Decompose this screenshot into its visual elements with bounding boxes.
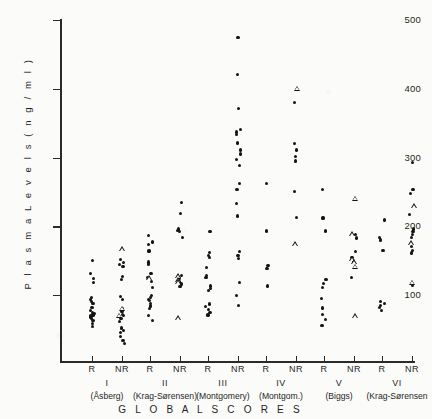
x-tick-IV-R (266, 356, 267, 362)
data-point-dot (122, 314, 125, 317)
data-point-triangle (292, 241, 298, 246)
data-point-dot (235, 294, 238, 297)
y-axis-title: P l a s m a L e v e l s ( n g / m l ) (22, 29, 33, 319)
data-point-triangle (352, 264, 358, 269)
data-point-dot (380, 309, 383, 312)
data-point-dot (120, 278, 123, 281)
data-point-dot (237, 107, 240, 110)
data-point-triangle (352, 313, 358, 318)
data-point-dot (205, 266, 208, 269)
x-label-VI-NR: NR (397, 364, 427, 374)
data-point-dot (322, 282, 325, 285)
data-point-dot (236, 141, 239, 144)
data-point-dot (236, 214, 239, 217)
data-point-dot (235, 158, 238, 161)
data-point-dot (408, 213, 411, 216)
data-point-dot (354, 250, 357, 253)
x-label-II-R: R (135, 364, 165, 374)
data-point-dot (119, 258, 122, 261)
group-roman-IV: IV (251, 378, 311, 388)
data-point-dot (239, 148, 242, 151)
group-name-VI: (Krag-Sørensen (351, 391, 432, 401)
data-point-triangle (411, 203, 417, 208)
data-point-dot (238, 182, 241, 185)
data-point-dot (266, 284, 269, 287)
data-point-dot (350, 276, 353, 279)
data-point-dot (379, 300, 382, 303)
x-label-I-R: R (77, 364, 107, 374)
data-point-dot (91, 325, 94, 328)
data-point-triangle (175, 315, 181, 320)
data-point-dot (411, 188, 414, 191)
y-tick-label-300: 300 (375, 152, 421, 163)
data-point-dot (235, 188, 238, 191)
data-point-dot (324, 318, 327, 321)
data-point-dot (147, 314, 150, 317)
data-point-dot (321, 286, 324, 289)
data-point-dot (208, 302, 211, 305)
x-label-V-NR: NR (339, 364, 369, 374)
data-point-dot (381, 249, 384, 252)
data-point-dot (89, 272, 92, 275)
data-point-dot (121, 298, 124, 301)
x-tick-I-NR (122, 356, 123, 362)
data-point-triangle (119, 306, 125, 311)
data-point-dot (147, 234, 150, 237)
data-point-dot (147, 249, 150, 252)
data-point-triangle (409, 280, 415, 285)
y-tick-label-500: 500 (375, 14, 421, 25)
data-point-dot (206, 313, 209, 316)
data-point-dot (235, 202, 238, 205)
data-point-dot (238, 164, 241, 167)
data-point-dot (118, 320, 121, 323)
x-axis-title: G L O B A L S C O R E S (0, 404, 421, 415)
data-point-dot (119, 331, 122, 334)
y-tick-400 (53, 89, 61, 90)
data-point-dot (321, 306, 324, 309)
data-point-triangle (349, 231, 355, 236)
x-label-VI-R: R (367, 364, 397, 374)
data-point-dot (320, 324, 323, 327)
y-tick-500 (53, 20, 61, 21)
x-label-III-R: R (193, 364, 223, 374)
data-point-dot (383, 302, 386, 305)
data-point-dot (293, 142, 296, 145)
data-point-dot (295, 148, 298, 151)
data-point-dot (151, 319, 154, 322)
group-roman-V: V (309, 378, 369, 388)
data-point-dot (321, 313, 324, 316)
data-point-dot (410, 245, 413, 248)
data-point-dot (293, 190, 296, 193)
data-point-dot (295, 216, 298, 219)
x-tick-II-R (150, 356, 151, 362)
data-point-dot (294, 155, 297, 158)
data-point-dot (321, 216, 324, 219)
data-point-triangle (146, 275, 152, 280)
y-tick-200 (53, 226, 61, 227)
data-point-dot (91, 259, 94, 262)
data-point-dot (409, 192, 412, 195)
data-point-dot (411, 161, 414, 164)
data-point-dot (265, 267, 268, 270)
data-point-dot (236, 73, 239, 76)
y-axis-line (60, 19, 62, 362)
data-point-triangle (119, 246, 125, 251)
data-point-dot (383, 218, 386, 221)
data-point-dot (122, 329, 125, 332)
group-roman-VI: VI (367, 378, 427, 388)
data-point-dot (178, 285, 181, 288)
data-point-dot (91, 302, 94, 305)
data-point-dot (178, 230, 181, 233)
data-point-dot (265, 229, 268, 232)
group-roman-II: II (135, 378, 195, 388)
data-point-triangle (294, 86, 300, 91)
data-point-dot (320, 297, 323, 300)
data-point-dot (265, 182, 268, 185)
x-label-III-NR: NR (223, 364, 253, 374)
x-label-IV-NR: NR (281, 364, 311, 374)
data-point-dot (119, 335, 122, 338)
data-point-dot (204, 276, 207, 279)
data-point-dot (237, 304, 240, 307)
x-tick-V-NR (354, 356, 355, 362)
